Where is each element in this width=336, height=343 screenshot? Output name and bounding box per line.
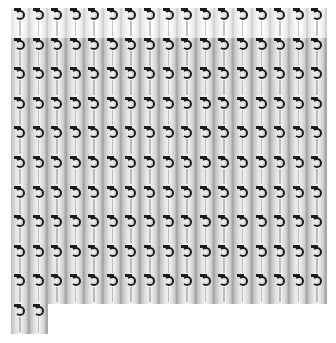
thumbnail-item[interactable] [215, 186, 234, 216]
thumbnail-item[interactable] [308, 126, 327, 156]
thumbnail-item[interactable] [67, 215, 86, 245]
thumbnail-item[interactable] [197, 97, 216, 127]
thumbnail-item[interactable] [141, 67, 160, 97]
thumbnail-item[interactable] [271, 215, 290, 245]
thumbnail-item[interactable] [122, 274, 141, 304]
thumbnail-item[interactable] [104, 245, 123, 275]
thumbnail-item[interactable] [290, 215, 309, 245]
thumbnail-item[interactable] [85, 126, 104, 156]
thumbnail-item[interactable] [160, 156, 179, 186]
thumbnail-item[interactable] [160, 215, 179, 245]
thumbnail-item[interactable] [48, 67, 67, 97]
thumbnail-item[interactable] [160, 67, 179, 97]
thumbnail-item[interactable] [141, 274, 160, 304]
thumbnail-item[interactable] [122, 245, 141, 275]
thumbnail-item[interactable] [178, 215, 197, 245]
thumbnail-item[interactable] [160, 97, 179, 127]
thumbnail-item[interactable] [160, 38, 179, 68]
thumbnail-item[interactable] [271, 126, 290, 156]
thumbnail-item[interactable] [67, 38, 86, 68]
thumbnail-item[interactable] [122, 97, 141, 127]
thumbnail-item[interactable] [48, 126, 67, 156]
thumbnail-item[interactable] [234, 274, 253, 304]
thumbnail-item[interactable] [197, 8, 216, 38]
thumbnail-item[interactable] [30, 67, 49, 97]
thumbnail-item[interactable] [271, 274, 290, 304]
thumbnail-item[interactable] [85, 38, 104, 68]
thumbnail-item[interactable] [30, 156, 49, 186]
thumbnail-item[interactable] [122, 38, 141, 68]
thumbnail-item[interactable] [253, 67, 272, 97]
thumbnail-item[interactable] [141, 38, 160, 68]
thumbnail-item[interactable] [141, 186, 160, 216]
thumbnail-item[interactable] [271, 97, 290, 127]
thumbnail-item[interactable] [122, 215, 141, 245]
thumbnail-item[interactable] [178, 156, 197, 186]
thumbnail-item[interactable] [253, 245, 272, 275]
thumbnail-item[interactable] [104, 8, 123, 38]
thumbnail-item[interactable] [30, 97, 49, 127]
thumbnail-item[interactable] [271, 186, 290, 216]
thumbnail-item[interactable] [234, 215, 253, 245]
thumbnail-item[interactable] [308, 186, 327, 216]
thumbnail-item[interactable] [48, 186, 67, 216]
thumbnail-item[interactable] [30, 8, 49, 38]
thumbnail-item[interactable] [48, 38, 67, 68]
thumbnail-item[interactable] [122, 126, 141, 156]
thumbnail-item[interactable] [11, 274, 30, 304]
thumbnail-item[interactable] [197, 274, 216, 304]
thumbnail-item[interactable] [48, 156, 67, 186]
thumbnail-item[interactable] [11, 38, 30, 68]
thumbnail-item[interactable] [253, 186, 272, 216]
thumbnail-item[interactable] [160, 126, 179, 156]
thumbnail-item[interactable] [253, 8, 272, 38]
thumbnail-item[interactable] [271, 67, 290, 97]
thumbnail-item[interactable] [308, 67, 327, 97]
thumbnail-item[interactable] [30, 245, 49, 275]
thumbnail-item[interactable] [11, 215, 30, 245]
thumbnail-item[interactable] [104, 97, 123, 127]
thumbnail-item[interactable] [290, 274, 309, 304]
thumbnail-item[interactable] [48, 245, 67, 275]
thumbnail-item[interactable] [234, 156, 253, 186]
thumbnail-item[interactable] [215, 215, 234, 245]
thumbnail-item[interactable] [253, 156, 272, 186]
thumbnail-item[interactable] [308, 97, 327, 127]
thumbnail-item[interactable] [141, 126, 160, 156]
thumbnail-item[interactable] [11, 245, 30, 275]
thumbnail-item[interactable] [67, 245, 86, 275]
thumbnail-item[interactable] [271, 38, 290, 68]
thumbnail-item[interactable] [11, 8, 30, 38]
thumbnail-item[interactable] [48, 215, 67, 245]
thumbnail-item[interactable] [160, 8, 179, 38]
thumbnail-item[interactable] [30, 215, 49, 245]
thumbnail-item[interactable] [253, 126, 272, 156]
thumbnail-item[interactable] [104, 215, 123, 245]
thumbnail-item[interactable] [308, 38, 327, 68]
thumbnail-item[interactable] [308, 245, 327, 275]
thumbnail-item[interactable] [215, 8, 234, 38]
thumbnail-item[interactable] [30, 186, 49, 216]
thumbnail-item[interactable] [290, 8, 309, 38]
thumbnail-item[interactable] [234, 245, 253, 275]
thumbnail-item[interactable] [290, 97, 309, 127]
thumbnail-item[interactable] [234, 186, 253, 216]
thumbnail-item[interactable] [85, 215, 104, 245]
thumbnail-item[interactable] [48, 8, 67, 38]
thumbnail-item[interactable] [141, 215, 160, 245]
thumbnail-item[interactable] [30, 274, 49, 304]
thumbnail-item[interactable] [11, 97, 30, 127]
thumbnail-item[interactable] [67, 97, 86, 127]
thumbnail-item[interactable] [141, 8, 160, 38]
thumbnail-item[interactable] [308, 156, 327, 186]
thumbnail-item[interactable] [160, 274, 179, 304]
thumbnail-item[interactable] [290, 156, 309, 186]
thumbnail-item[interactable] [141, 97, 160, 127]
thumbnail-item[interactable] [234, 126, 253, 156]
thumbnail-item[interactable] [104, 126, 123, 156]
thumbnail-item[interactable] [30, 304, 49, 334]
thumbnail-item[interactable] [122, 8, 141, 38]
thumbnail-item[interactable] [48, 274, 67, 304]
thumbnail-item[interactable] [48, 97, 67, 127]
thumbnail-item[interactable] [197, 126, 216, 156]
